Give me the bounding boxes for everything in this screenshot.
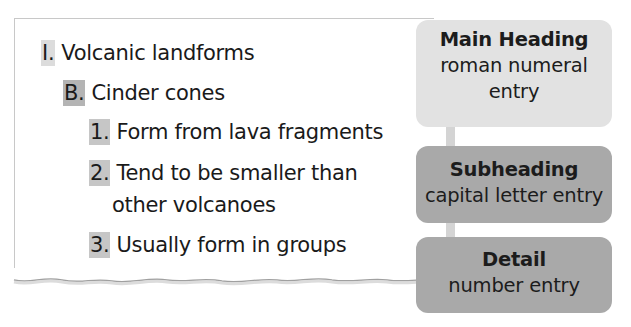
- outline-item-detail: 3.Usually form in groups: [89, 232, 347, 258]
- legend-subheading: Subheading capital letter entry: [416, 146, 612, 223]
- outline-text: Usually form in groups: [116, 233, 346, 257]
- legend-main-heading: Main Heading roman numeral entry: [416, 20, 612, 127]
- outline-text: Volcanic landforms: [61, 41, 254, 65]
- legend-desc: roman numeral: [416, 53, 612, 79]
- legend-detail: Detail number entry: [416, 237, 612, 313]
- number-marker: 1.: [89, 119, 110, 145]
- outline-text: Tend to be smaller than: [116, 161, 357, 185]
- legend-title: Subheading: [416, 157, 612, 183]
- outline-item-main: I.Volcanic landforms: [41, 40, 254, 66]
- legend-connector: [446, 126, 455, 148]
- outline-item-continuation: other volcanoes: [112, 192, 276, 218]
- capital-letter-marker: B.: [63, 80, 85, 106]
- outline-item-detail: 2.Tend to be smaller than: [89, 160, 358, 186]
- legend-title: Detail: [416, 247, 612, 273]
- outline-text: Form from lava fragments: [116, 120, 383, 144]
- number-marker: 3.: [89, 232, 110, 258]
- outline-text: Cinder cones: [91, 81, 224, 105]
- outline-item-detail: 1.Form from lava fragments: [89, 119, 383, 145]
- legend-desc: number entry: [416, 273, 612, 299]
- number-marker: 2.: [89, 160, 110, 186]
- outline-item-subheading: B.Cinder cones: [63, 80, 225, 106]
- roman-numeral-marker: I.: [41, 40, 55, 66]
- legend-desc: entry: [416, 79, 612, 105]
- outline-text: other volcanoes: [112, 193, 276, 217]
- legend-title: Main Heading: [416, 27, 612, 53]
- torn-paper-edge: [12, 268, 442, 298]
- legend-desc: capital letter entry: [416, 183, 612, 209]
